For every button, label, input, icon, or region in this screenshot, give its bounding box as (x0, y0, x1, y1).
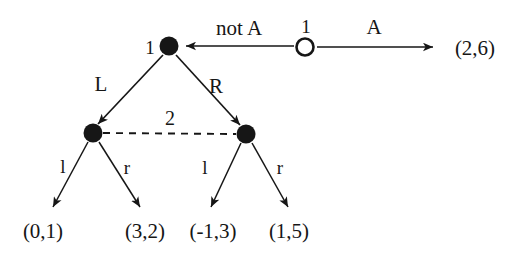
decision-node-player2-right[interactable] (237, 125, 256, 144)
decision-node-player1[interactable] (160, 37, 179, 56)
edge-left-l-line (53, 142, 88, 207)
edge-label-not-a: not A (216, 18, 262, 39)
node-label-player1-left: 1 (145, 38, 155, 57)
decision-node-player2-left[interactable] (84, 124, 103, 143)
root-node-player1[interactable] (297, 39, 314, 56)
edge-right-l-line (211, 143, 241, 207)
information-set-label: 2 (165, 108, 175, 128)
node-label-player1-root: 1 (301, 17, 311, 36)
edge-left-r-line (99, 142, 140, 207)
edge-label-left-r: r (124, 158, 130, 177)
payoff-1: (0,1) (23, 221, 63, 242)
edge-label-L: L (95, 74, 108, 95)
game-tree-figure: n1 (arrow points LEFT) --> (2,6) --> n2l… (0, 0, 513, 260)
payoff-3: (-1,3) (189, 221, 236, 242)
edge-label-right-l: l (202, 158, 207, 177)
payoff-2: (3,2) (125, 221, 165, 242)
edge-label-a: A (366, 17, 381, 38)
edge-label-left-l: l (60, 157, 65, 176)
edge-label-right-r: r (277, 158, 283, 177)
payoff-a: (2,6) (455, 38, 495, 59)
information-set-line (103, 133, 236, 134)
edge-label-R: R (209, 76, 223, 97)
edge-L-line (98, 55, 163, 124)
payoff-4: (1,5) (269, 221, 309, 242)
